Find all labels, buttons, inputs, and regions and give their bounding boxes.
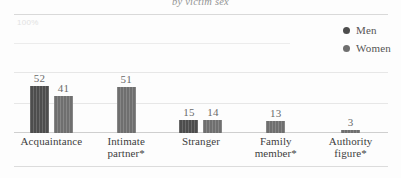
top-divider-rule xyxy=(14,14,388,15)
bar-women[interactable] xyxy=(341,130,360,133)
bar-women[interactable] xyxy=(54,96,73,133)
bar-item[interactable]: 41 xyxy=(54,20,73,133)
bar-women[interactable] xyxy=(203,120,222,133)
category-label: Authority figure* xyxy=(313,135,388,159)
bar-item[interactable]: 52 xyxy=(30,20,49,133)
category-axis-labels: AcquaintanceIntimate partner*StrangerFam… xyxy=(14,135,388,159)
bar-groups: 5241511514133 xyxy=(14,20,388,133)
category-label: Acquaintance xyxy=(14,135,89,159)
legend-item-women[interactable]: Women xyxy=(343,42,391,54)
bar-women[interactable] xyxy=(117,87,136,133)
bar-value-label: 14 xyxy=(207,106,218,118)
bar-value-label: 41 xyxy=(58,82,69,94)
bar-item[interactable]: 51 xyxy=(117,20,136,133)
chart-legend: Men Women xyxy=(343,24,391,54)
bar-group: 51 xyxy=(89,20,164,133)
bottom-divider-rule xyxy=(14,166,388,167)
legend-swatch-women-icon xyxy=(343,45,350,52)
legend-swatch-men-icon xyxy=(343,27,350,34)
legend-item-men[interactable]: Men xyxy=(343,24,391,36)
category-label: Family member* xyxy=(238,135,313,159)
legend-label-women: Women xyxy=(356,42,391,54)
bar-men[interactable] xyxy=(179,120,198,133)
bar-group: 13 xyxy=(238,20,313,133)
bar-item[interactable]: 14 xyxy=(203,20,222,133)
bar-item[interactable]: 13 xyxy=(266,20,285,133)
bar-value-label: 51 xyxy=(120,73,131,85)
bar-value-label: 13 xyxy=(270,107,281,119)
bar-value-label: 3 xyxy=(348,116,354,128)
bar-group: 1514 xyxy=(164,20,239,133)
bar-chart-figure: by victim sex 100% 5241511514133 Men Wom… xyxy=(0,0,401,178)
bar-value-label: 15 xyxy=(183,106,194,118)
bar-men[interactable] xyxy=(30,86,49,133)
plot-area: 100% 5241511514133 xyxy=(14,20,388,133)
legend-label-men: Men xyxy=(356,24,377,36)
bar-group: 5241 xyxy=(14,20,89,133)
bar-women[interactable] xyxy=(266,121,285,133)
chart-title: by victim sex xyxy=(0,0,401,8)
category-label: Stranger xyxy=(164,135,239,159)
bar-item[interactable]: 15 xyxy=(179,20,198,133)
category-label: Intimate partner* xyxy=(89,135,164,159)
bar-value-label: 52 xyxy=(34,72,45,84)
